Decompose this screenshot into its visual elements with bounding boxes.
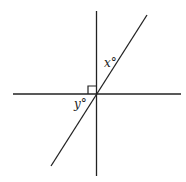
angle-diagram: x° y° (0, 0, 186, 182)
angle-label-x: x° (104, 56, 117, 70)
angle-label-y: y° (73, 97, 87, 111)
diagonal-line (51, 15, 147, 166)
right-angle-marker (88, 86, 97, 94)
